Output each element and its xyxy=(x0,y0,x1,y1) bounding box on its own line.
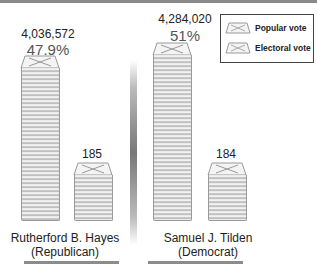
hayes-underline xyxy=(24,261,119,264)
ballot-cap-icon xyxy=(73,162,113,176)
ballot-icon xyxy=(225,22,251,34)
candidate-party: (Republican) xyxy=(5,245,125,259)
divider xyxy=(130,60,137,245)
legend-item-popular: Popular vote xyxy=(225,22,306,34)
hayes-electoral-count: 185 xyxy=(72,147,112,161)
legend-label: Electoral vote xyxy=(255,43,311,53)
hayes-name-label: Rutherford B. Hayes (Republican) xyxy=(5,231,125,259)
ballot-cap-icon xyxy=(20,55,60,69)
candidate-name: Samuel J. Tilden xyxy=(158,231,258,245)
hayes-popular-bar xyxy=(21,68,60,221)
ballot-cap-icon xyxy=(207,162,247,176)
hayes-electoral-bar xyxy=(74,175,113,221)
top-border xyxy=(0,0,317,3)
tilden-name-label: Samuel J. Tilden (Democrat) xyxy=(158,231,258,259)
tilden-electoral-count: 184 xyxy=(206,147,246,161)
ballot-icon xyxy=(225,42,251,54)
tilden-underline xyxy=(148,261,243,264)
tilden-electoral-bar xyxy=(208,175,247,221)
legend-label: Popular vote xyxy=(255,23,306,33)
tilden-popular-bar xyxy=(153,55,192,221)
candidate-name: Rutherford B. Hayes xyxy=(5,231,125,245)
hayes-popular-count: 4,036,572 xyxy=(8,27,88,41)
ballot-cap-icon xyxy=(152,42,192,56)
legend-item-electoral: Electoral vote xyxy=(225,42,311,54)
candidate-party: (Democrat) xyxy=(158,245,258,259)
legend: Popular vote Electoral vote xyxy=(220,14,314,63)
tilden-popular-count: 4,284,020 xyxy=(145,12,225,26)
